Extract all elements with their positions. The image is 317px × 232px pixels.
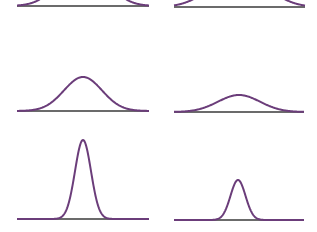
panel-row1-right <box>174 0 305 7</box>
panel-row3-right <box>174 180 304 220</box>
panel-grid <box>17 0 305 220</box>
panel-row1-left <box>17 0 149 6</box>
bell-curve <box>17 140 149 219</box>
bell-curve <box>174 95 304 112</box>
bell-curve <box>17 0 149 5</box>
figure-caption <box>16 227 306 232</box>
bell-curve <box>174 0 305 6</box>
panel-row2-left <box>17 77 149 111</box>
panel-row2-right <box>174 95 304 112</box>
panel-row3-left <box>17 140 149 219</box>
bell-curve <box>17 77 149 111</box>
bell-curve <box>174 180 304 220</box>
normal-distribution-figure <box>0 0 317 232</box>
